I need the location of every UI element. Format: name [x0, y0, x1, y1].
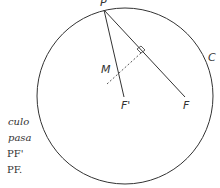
- label-p: P: [100, 0, 107, 8]
- perpendicular-bisector: [107, 53, 141, 84]
- side-text-line-3: PF': [7, 149, 23, 159]
- geometry-diagram: [0, 0, 220, 188]
- label-m: M: [101, 64, 111, 75]
- side-text-line-4: PF.: [7, 165, 22, 175]
- segment-pf: [104, 10, 185, 97]
- label-f-prime: F': [121, 100, 130, 111]
- label-f: F: [183, 100, 189, 111]
- side-text-line-1: culo: [8, 117, 29, 127]
- label-c: C: [208, 52, 216, 63]
- side-text-line-2: pasa: [8, 133, 31, 143]
- circle-c: [37, 8, 213, 184]
